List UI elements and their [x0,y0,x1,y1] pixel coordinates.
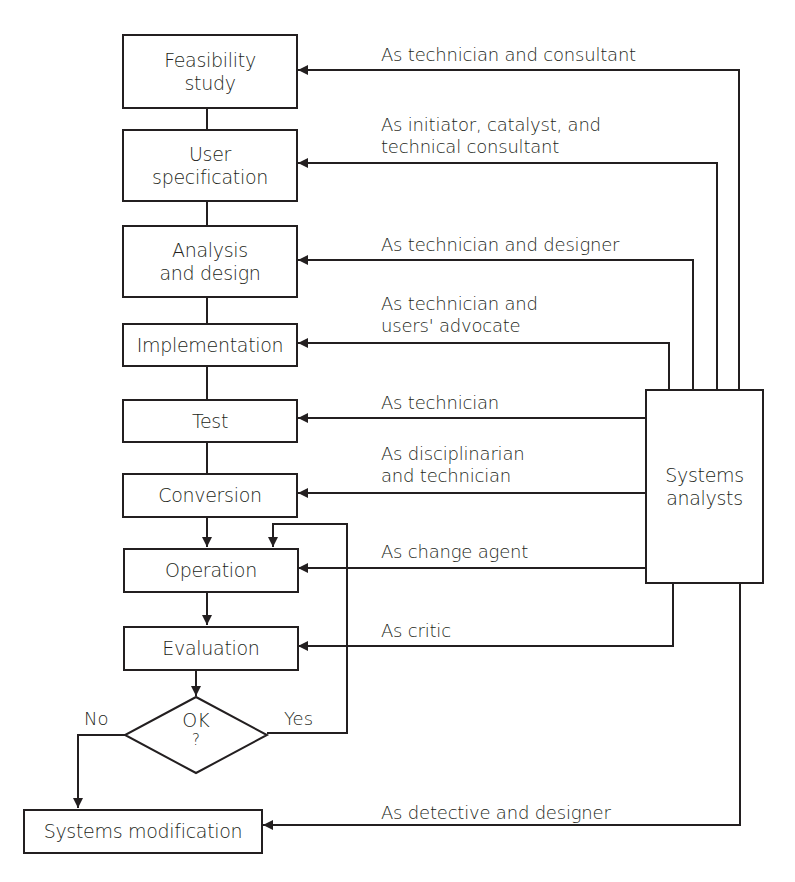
role-text: As technician and [381,293,538,315]
role-label-evaluation: As critic [381,620,451,642]
role-text: users' advocate [381,315,538,337]
decision-no-label: No [84,708,108,729]
role-text: As technician [381,392,499,414]
stage-label: and design [159,262,260,285]
role-text: As technician and designer [381,234,619,256]
actor-label: Systems [665,464,744,487]
role-label-implementation: As technician and users' advocate [381,293,538,337]
stage-test: Test [122,399,298,443]
role-text: As initiator, catalyst, and [381,114,601,136]
role-text: As disciplinarian [381,443,524,465]
role-label-feasibility: As technician and consultant [381,44,636,66]
role-text: technical consultant [381,136,601,158]
stage-label: Conversion [158,484,262,507]
stage-label: Evaluation [162,637,259,660]
stage-label: Systems modification [44,820,243,843]
role-label-analysis: As technician and designer [381,234,619,256]
role-text: As detective and designer [381,802,611,824]
stage-label: study [184,72,235,95]
stage-conversion: Conversion [122,473,298,518]
stage-implementation: Implementation [122,323,298,367]
role-label-conversion: As disciplinarian and technician [381,443,524,487]
stage-label: User [189,143,231,166]
role-label-operation: As change agent [381,541,528,563]
actor-label: analysts [666,487,743,510]
role-text: As technician and consultant [381,44,636,66]
stage-label: Operation [165,559,257,582]
role-text: and technician [381,465,524,487]
stage-user-specification: User specification [122,129,298,202]
role-text: As critic [381,620,451,642]
actor-systems-analysts: Systems analysts [645,389,764,584]
stage-label: Analysis [172,239,248,262]
stage-label: specification [152,166,268,189]
role-label-systems-modification: As detective and designer [381,802,611,824]
role-label-test: As technician [381,392,499,414]
stage-label: Implementation [137,334,284,357]
decision-ok: OK ? [166,710,226,750]
stage-analysis-and-design: Analysis and design [122,225,298,298]
stage-evaluation: Evaluation [123,626,299,671]
stage-systems-modification: Systems modification [23,809,263,854]
role-label-user-spec: As initiator, catalyst, and technical co… [381,114,601,158]
role-text: As change agent [381,541,528,563]
decision-yes-label: Yes [284,708,313,729]
decision-label: OK [166,710,226,730]
stage-label: Test [192,410,228,433]
stage-operation: Operation [123,548,299,593]
decision-question: ? [166,730,226,750]
stage-label: Feasibility [164,49,256,72]
stage-feasibility-study: Feasibility study [122,34,298,109]
